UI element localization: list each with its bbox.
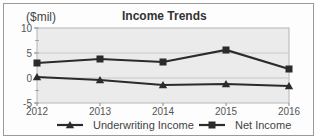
legend-item: Net Income [199, 119, 291, 131]
x-tick-label: 2015 [215, 106, 238, 117]
x-tick-label: 2014 [152, 106, 175, 117]
y-tick-label: 10 [21, 23, 33, 34]
legend-label: Underwriting Income [93, 119, 194, 131]
legend-item: Underwriting Income [57, 119, 194, 131]
y-tick-label: 0 [26, 73, 32, 84]
legend: Underwriting IncomeNet Income [57, 119, 291, 131]
x-axis-ticks: 20122013201420152016 [26, 103, 301, 117]
chart-svg: 1050-5 20122013201420152016 Underwriting… [0, 0, 317, 138]
x-tick-label: 2012 [26, 106, 49, 117]
x-tick-label: 2016 [278, 106, 301, 117]
y-tick-label: 5 [26, 48, 32, 59]
x-tick-label: 2013 [89, 106, 112, 117]
legend-label: Net Income [235, 119, 291, 131]
